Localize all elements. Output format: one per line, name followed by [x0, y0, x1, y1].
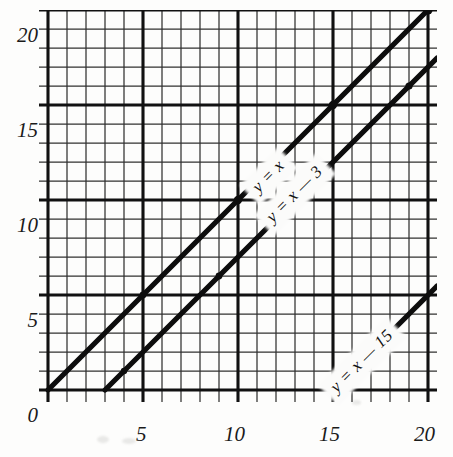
x-tick-label-10: 10 [224, 424, 245, 445]
data-point-marker [405, 82, 412, 89]
y-tick-label-5: 5 [4, 310, 38, 331]
x-tick-label-5: 5 [136, 424, 147, 445]
data-point-marker [329, 101, 337, 109]
y-tick-label-10: 10 [4, 215, 38, 236]
x-tick-label-20: 20 [414, 424, 435, 445]
scan-artifact [122, 438, 136, 444]
y-tick-label-0: 0 [4, 405, 38, 426]
graph-figure: y = x y = x — 3 y = x — 15 20 15 10 5 0 … [0, 0, 453, 457]
y-tick-label-20: 20 [4, 25, 38, 46]
x-tick-label-15: 15 [319, 424, 340, 445]
scan-artifact [97, 436, 109, 443]
y-tick-label-15: 15 [4, 120, 38, 141]
data-point-marker [234, 196, 242, 204]
data-point-marker [140, 292, 147, 299]
data-point-marker [121, 368, 127, 374]
data-point-marker [216, 273, 223, 280]
